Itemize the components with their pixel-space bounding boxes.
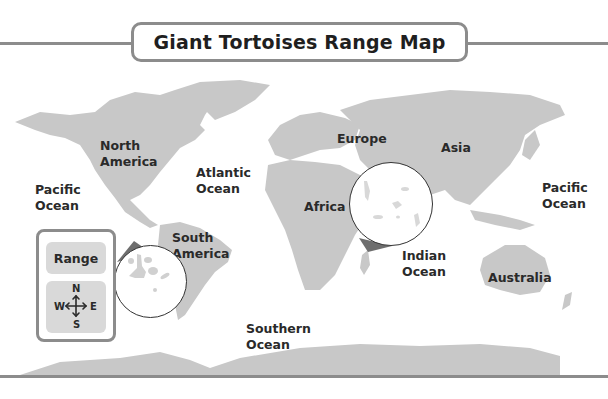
label-line: Pacific — [35, 182, 81, 198]
label-line: Ocean — [196, 181, 251, 197]
map-legend: Range N W E S — [36, 229, 116, 342]
new-zealand-landmass — [562, 292, 572, 310]
galapagos-islands-map — [115, 246, 187, 318]
compass-south: S — [73, 319, 80, 330]
legend-range-label: Range — [54, 251, 98, 266]
label-line: Ocean — [35, 198, 81, 214]
label-line: Pacific — [542, 180, 588, 196]
label-south-america: South America — [172, 230, 229, 262]
label-pacific-ocean-east: Pacific Ocean — [542, 180, 588, 212]
label-indian-ocean: Indian Ocean — [402, 248, 446, 280]
label-pacific-ocean-west: Pacific Ocean — [35, 182, 81, 214]
label-atlantic-ocean: Atlantic Ocean — [196, 165, 251, 197]
label-line: Southern — [246, 321, 311, 337]
map-title: Giant Tortoises Range Map — [153, 31, 445, 53]
legend-range-key: Range — [46, 242, 106, 274]
compass-east: E — [90, 301, 97, 312]
label-southern-ocean: Southern Ocean — [246, 321, 311, 353]
compass-arrows-icon — [64, 294, 88, 318]
madagascar-landmass — [360, 250, 370, 275]
compass-north: N — [72, 283, 80, 294]
compass-rose: N W E S — [46, 281, 106, 333]
title-banner: Giant Tortoises Range Map — [131, 22, 468, 62]
label-line: North — [100, 138, 157, 154]
label-line: Atlantic — [196, 165, 251, 181]
label-line: America — [100, 154, 157, 170]
seychelles-inset-circle — [349, 162, 433, 246]
label-asia: Asia — [441, 140, 471, 156]
galapagos-inset-circle — [114, 245, 187, 318]
label-line: South — [172, 230, 229, 246]
label-africa: Africa — [304, 199, 345, 215]
label-line: Ocean — [542, 196, 588, 212]
label-line: Indian — [402, 248, 446, 264]
label-europe: Europe — [337, 131, 387, 147]
label-line: America — [172, 246, 229, 262]
label-line: Ocean — [246, 337, 311, 353]
label-north-america: North America — [100, 138, 157, 170]
se-asia-islands — [470, 210, 535, 230]
seychelles-islands-map — [350, 163, 433, 246]
label-australia: Australia — [488, 270, 552, 286]
bottom-rule — [0, 375, 608, 378]
label-line: Ocean — [402, 264, 446, 280]
